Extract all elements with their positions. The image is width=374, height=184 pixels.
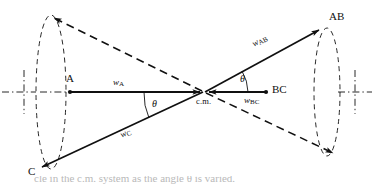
angle-arc-lower	[144, 92, 149, 118]
caption-strip: cle in the c.m. system as the angle θ is…	[0, 176, 374, 184]
figure-root: A BC AB C c.m. wA wBC wAB wC θ θ cle in …	[0, 0, 374, 184]
caption-text: cle in the c.m. system as the angle θ is…	[34, 176, 235, 184]
point-a-marker	[68, 90, 72, 94]
cone-line-upper-left	[54, 18, 202, 91]
label-point-bc: BC	[272, 84, 287, 95]
label-angle-theta-lower: θ	[152, 99, 157, 109]
label-vector-w-a-subscript: A	[119, 80, 124, 88]
label-point-a: A	[66, 73, 74, 84]
label-center-of-mass: c.m.	[196, 97, 211, 106]
vector-diagram-canvas	[0, 0, 374, 184]
label-vector-w-bc-subscript: BC	[250, 98, 260, 106]
label-vector-w-bc: wBC	[244, 96, 260, 106]
left-axis-crosshair	[2, 70, 36, 114]
right-axis-crosshair	[338, 70, 372, 114]
point-bc-marker	[264, 90, 268, 94]
label-vector-w-a: wA	[113, 78, 124, 88]
label-point-ab: AB	[329, 11, 344, 22]
cone-line-lower-right	[206, 93, 333, 153]
right-cone-ellipse	[314, 28, 340, 156]
label-angle-theta-upper: θ	[240, 74, 245, 84]
